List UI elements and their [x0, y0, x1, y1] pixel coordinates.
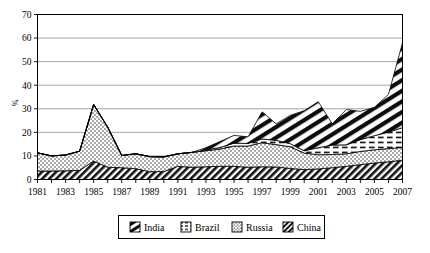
x-tick-label: 1997 — [253, 187, 272, 197]
x-tick-label: 1981 — [28, 187, 47, 197]
y-axis-title: % — [11, 99, 20, 106]
x-tick-label: 1985 — [84, 187, 103, 197]
x-tick-label: 1999 — [281, 187, 300, 197]
y-tick-label: 60 — [22, 33, 32, 43]
x-tick-label: 1987 — [112, 187, 131, 197]
y-tick-label: 40 — [22, 81, 32, 91]
y-tick-label: 0 — [27, 175, 32, 185]
y-tick-label: 50 — [22, 57, 32, 67]
chart-container: 010203040506070 198119831985198719891991… — [0, 0, 430, 253]
x-tick-label: 1983 — [56, 187, 75, 197]
x-tick-label: 2003 — [337, 187, 356, 197]
legend-label-china: China — [297, 222, 321, 233]
legend-swatch-india — [130, 222, 140, 232]
stacked-area-chart: 010203040506070 198119831985198719891991… — [0, 0, 430, 253]
y-tick-label: 30 — [22, 104, 32, 114]
x-tick-label: 1995 — [225, 187, 244, 197]
x-tick-label: 1989 — [140, 187, 159, 197]
legend-label-russia: Russia — [246, 222, 273, 233]
legend-swatch-russia — [232, 222, 242, 232]
y-tick-label: 10 — [22, 151, 32, 161]
legend-label-india: India — [144, 222, 165, 233]
legend-label-brazil: Brazil — [195, 222, 220, 233]
x-tick-label: 1993 — [196, 187, 215, 197]
legend-swatch-china — [283, 222, 293, 232]
y-tick-label: 70 — [22, 10, 32, 20]
legend-swatch-brazil — [181, 222, 191, 232]
x-tick-label: 2005 — [365, 187, 384, 197]
x-tick-label: 2007 — [393, 187, 412, 197]
x-tick-label: 2001 — [309, 187, 328, 197]
y-tick-label: 20 — [22, 128, 32, 138]
chart-legend: IndiaBrazilRussiaChina — [119, 216, 325, 239]
x-tick-label: 1991 — [168, 187, 187, 197]
